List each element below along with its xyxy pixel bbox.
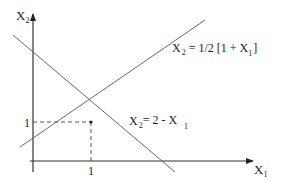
diagram-canvas: X2 X1 1 1 X2 = 1/2 [1 + X1] X2= 2 - X1 xyxy=(0,0,282,183)
x-tick-label-1: 1 xyxy=(88,164,94,178)
intersection-point xyxy=(89,120,92,123)
y-tick-label-1: 1 xyxy=(24,116,30,130)
line-two-minus-x1 xyxy=(13,35,175,172)
equation-label-two-minus-x1: X2= 2 - X1 xyxy=(129,113,188,131)
line-half-one-plus-x1 xyxy=(20,20,205,147)
y-axis-label: X2 xyxy=(16,8,29,25)
equation-label-half-one-plus-x1: X2 = 1/2 [1 + X1] xyxy=(172,41,257,58)
x-axis-label: X1 xyxy=(254,162,267,179)
